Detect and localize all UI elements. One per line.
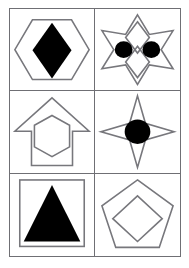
circle-filled-icon [125,120,151,144]
grid-frame [9,8,181,257]
cell-1-graphic [10,9,94,90]
cell-5-graphic [10,174,94,256]
triangle-filled-icon [24,185,81,242]
diamond-filled-icon [32,23,71,79]
cell-6-graphic [95,174,180,256]
cell-pentagon-with-diamond [95,174,180,256]
cell-four-pointed-star-with-filled-circle [95,91,180,173]
up-arrow-outline [15,98,89,166]
cell-square-with-filled-triangle [10,174,95,256]
pentagon-outline [102,180,173,247]
shape-grid-figure [0,0,189,268]
cell-six-pointed-star-with-diamonds-and-circles [95,9,180,91]
six-pointed-star-outline [102,15,173,85]
cell-2-graphic [95,9,180,90]
cell-4-graphic [95,91,180,172]
hexagon-outline [34,116,69,157]
cell-up-arrow-with-hexagon [10,91,95,173]
circle-left-filled-icon [115,41,133,58]
cell-3-graphic [10,91,94,172]
grid-cells [10,9,180,256]
cell-hexagon-with-filled-diamond [10,9,95,91]
circle-right-filled-icon [142,41,160,58]
diamond-outline [113,195,162,241]
